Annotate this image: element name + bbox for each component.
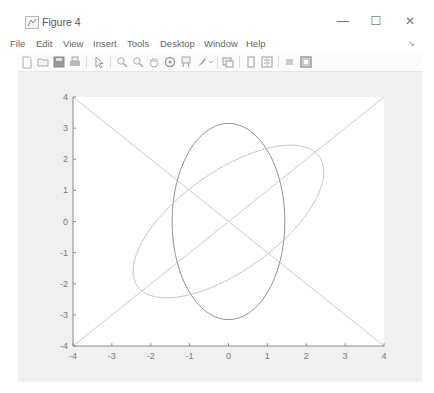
- toolbar-separator: [239, 56, 240, 68]
- y-tick-label: 4: [63, 92, 68, 102]
- zoom-out-icon[interactable]: [131, 55, 145, 69]
- toolbar-separator: [278, 56, 279, 68]
- plot-axes[interactable]: -4-3-2-101234-4-3-2-101234: [18, 72, 422, 382]
- minimize-button[interactable]: —: [329, 12, 357, 30]
- menu-tools[interactable]: Tools: [127, 38, 149, 49]
- minimize-icon: —: [337, 14, 349, 28]
- data-cursor-icon[interactable]: [179, 55, 193, 69]
- figure-canvas: -4-3-2-101234-4-3-2-101234: [18, 72, 422, 382]
- menu-file[interactable]: File: [10, 38, 25, 49]
- x-tick-label: 0: [226, 351, 231, 361]
- x-tick-label: -4: [69, 351, 77, 361]
- edit-plot-arrow-icon[interactable]: [92, 55, 106, 69]
- menu-bar: File Edit View Insert Tools Desktop Wind…: [0, 36, 434, 52]
- toolbar-separator: [110, 56, 111, 68]
- maximize-icon: ☐: [371, 14, 382, 28]
- pan-hand-icon[interactable]: [147, 55, 161, 69]
- title-bar: Figure 4 — ☐ ✕: [0, 0, 434, 34]
- link-plot-icon[interactable]: [221, 55, 235, 69]
- y-tick-label: -3: [60, 310, 68, 320]
- figure-toolbar: [18, 53, 422, 72]
- menu-edit[interactable]: Edit: [36, 38, 52, 49]
- x-tick-label: -2: [147, 351, 155, 361]
- menu-overflow-icon[interactable]: ↘: [408, 39, 415, 48]
- y-tick-label: -2: [60, 279, 68, 289]
- menu-insert[interactable]: Insert: [93, 38, 117, 49]
- save-icon[interactable]: [52, 55, 66, 69]
- open-file-icon[interactable]: [36, 55, 50, 69]
- menu-window[interactable]: Window: [204, 38, 238, 49]
- x-tick-label: 1: [265, 351, 270, 361]
- y-tick-label: -1: [60, 248, 68, 258]
- show-plot-tools-icon[interactable]: [299, 55, 313, 69]
- y-tick-label: 3: [63, 123, 68, 133]
- zoom-in-icon[interactable]: [115, 55, 129, 69]
- insert-legend-icon[interactable]: [260, 55, 274, 69]
- window-title: Figure 4: [42, 16, 81, 28]
- toolbar-separator: [86, 56, 87, 68]
- close-button[interactable]: ✕: [396, 12, 424, 30]
- menu-help[interactable]: Help: [246, 38, 266, 49]
- x-tick-label: 2: [304, 351, 309, 361]
- brush-dropdown-icon[interactable]: [207, 55, 215, 69]
- close-icon: ✕: [405, 14, 415, 28]
- insert-colorbar-icon[interactable]: [244, 55, 258, 69]
- hide-plot-tools-icon[interactable]: [283, 55, 297, 69]
- toolbar-separator: [217, 56, 218, 68]
- x-tick-label: 4: [381, 351, 386, 361]
- y-tick-label: 1: [63, 185, 68, 195]
- y-tick-label: 2: [63, 154, 68, 164]
- rotate-3d-icon[interactable]: [163, 55, 177, 69]
- x-tick-label: -3: [108, 351, 116, 361]
- maximize-button[interactable]: ☐: [362, 12, 390, 30]
- x-tick-label: 3: [343, 351, 348, 361]
- print-icon[interactable]: [68, 55, 82, 69]
- x-tick-label: -1: [186, 351, 194, 361]
- y-tick-label: -4: [60, 341, 68, 351]
- new-figure-icon[interactable]: [20, 55, 34, 69]
- matlab-figure-icon: [25, 16, 39, 29]
- menu-view[interactable]: View: [63, 38, 83, 49]
- y-tick-label: 0: [63, 217, 68, 227]
- menu-desktop[interactable]: Desktop: [160, 38, 195, 49]
